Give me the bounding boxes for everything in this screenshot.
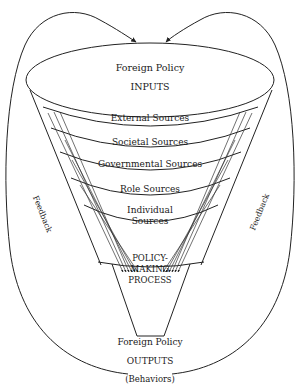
band-individual-sources-line1: Individual	[127, 205, 173, 215]
process-line3: PROCESS	[128, 275, 171, 285]
band-individual-sources-line2: Sources	[132, 216, 169, 226]
band-external-sources: External Sources	[111, 113, 190, 123]
feedback-label-right: Feedback	[248, 192, 271, 232]
process-line2: MAKING	[131, 264, 170, 274]
outputs-title: Foreign Policy	[117, 337, 183, 347]
band-role-sources: Role Sources	[120, 184, 180, 194]
outputs-label: OUTPUTS	[127, 356, 174, 366]
process-line1: POLICY-	[132, 253, 168, 263]
feedback-label-left: Feedback	[31, 194, 54, 234]
inputs-label: INPUTS	[130, 81, 169, 92]
inputs-title: Foreign Policy	[116, 62, 185, 73]
band-societal-sources: Societal Sources	[112, 137, 189, 147]
band-governmental-sources: Governmental Sources	[98, 159, 203, 169]
foreign-policy-funnel-diagram: Foreign Policy INPUTS External Sources S…	[0, 0, 300, 391]
outputs-sublabel: (Behaviors)	[125, 374, 175, 384]
